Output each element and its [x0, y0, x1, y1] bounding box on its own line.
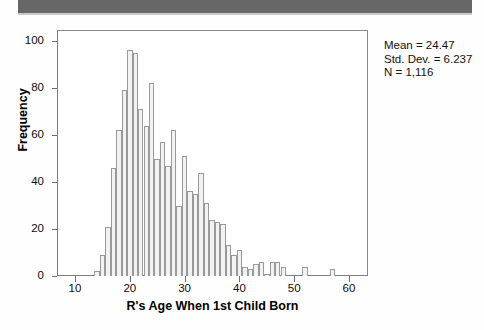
x-axis-tick-label: 20	[123, 283, 136, 295]
statistics-annotation: Mean = 24.47 Std. Dev. = 6.237 N = 1,116	[384, 39, 472, 80]
stat-mean: Mean = 24.47	[384, 39, 472, 53]
stat-std-dev: Std. Dev. = 6.237	[384, 53, 472, 67]
x-axis-tick-label: 60	[343, 283, 356, 295]
x-axis-title: R's Age When 1st Child Born	[57, 299, 368, 313]
y-axis-title: Frequency	[16, 50, 30, 190]
stat-n: N = 1,116	[384, 66, 472, 80]
x-axis-tick-label: 10	[69, 283, 82, 295]
x-axis-tick-label: 40	[233, 283, 246, 295]
screenshot-page: 020406080100 102030405060 R's Age When 1…	[0, 0, 484, 330]
x-axis-tick-label: 30	[178, 283, 191, 295]
x-axis-tick-label: 50	[288, 283, 301, 295]
histogram-chart: 020406080100 102030405060 R's Age When 1…	[0, 0, 484, 330]
